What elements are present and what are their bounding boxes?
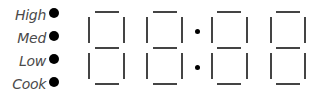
colon-dot-top-icon — [195, 29, 200, 34]
label-cook: Cook — [12, 76, 46, 92]
segment-d-icon — [217, 83, 241, 85]
segment-c-icon — [304, 53, 306, 79]
segment-d-icon — [95, 83, 119, 85]
indicator-cook-icon — [49, 77, 59, 87]
segment-d-icon — [276, 83, 300, 85]
segment-a-icon — [276, 11, 300, 13]
segment-e-icon — [211, 53, 213, 79]
colon-dot-bottom-icon — [195, 65, 200, 70]
segment-f-icon — [211, 17, 213, 43]
segment-a-icon — [217, 11, 241, 13]
indicator-med-icon — [49, 31, 59, 41]
segment-e-icon — [270, 53, 272, 79]
segment-b-icon — [123, 17, 125, 43]
segment-e-icon — [88, 53, 90, 79]
segment-e-icon — [146, 53, 148, 79]
label-high: High — [15, 7, 46, 23]
segment-b-icon — [304, 17, 306, 43]
label-med: Med — [17, 30, 46, 46]
indicator-high-icon — [49, 8, 59, 18]
segment-b-icon — [181, 17, 183, 43]
segment-c-icon — [181, 53, 183, 79]
segment-b-icon — [246, 17, 248, 43]
indicator-low-icon — [49, 54, 59, 64]
segment-c-icon — [123, 53, 125, 79]
segment-a-icon — [153, 11, 177, 13]
segment-a-icon — [95, 11, 119, 13]
segment-c-icon — [246, 53, 248, 79]
segment-g-icon — [217, 47, 241, 49]
segment-f-icon — [270, 17, 272, 43]
segment-f-icon — [88, 17, 90, 43]
segment-d-icon — [153, 83, 177, 85]
segment-g-icon — [95, 47, 119, 49]
segment-g-icon — [153, 47, 177, 49]
label-low: Low — [19, 53, 46, 69]
segment-g-icon — [276, 47, 300, 49]
segment-f-icon — [146, 17, 148, 43]
